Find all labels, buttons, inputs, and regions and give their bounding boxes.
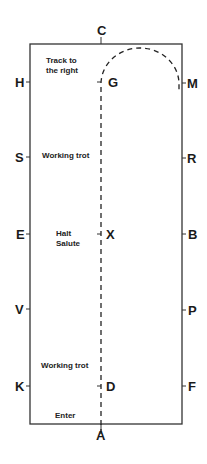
marker-k: K: [15, 380, 24, 393]
instruction-track-right: Track to the right: [46, 56, 78, 76]
marker-d: D: [106, 380, 115, 393]
instruction-enter: Enter: [55, 411, 75, 421]
marker-s: S: [15, 151, 24, 164]
marker-c: C: [97, 24, 106, 37]
instruction-working-trot-1: Working trot: [42, 151, 89, 161]
marker-a: A: [96, 429, 105, 442]
marker-h: H: [15, 76, 24, 89]
instruction-working-trot-2: Working trot: [41, 361, 88, 371]
arena-diagram: [0, 0, 207, 464]
marker-x: X: [106, 228, 115, 241]
marker-m: M: [187, 77, 198, 90]
marker-g: G: [108, 76, 118, 89]
marker-v: V: [15, 303, 24, 316]
marker-f: F: [188, 380, 196, 393]
instruction-halt-salute: Halt Salute: [56, 229, 80, 249]
marker-b: B: [188, 228, 197, 241]
marker-r: R: [187, 152, 196, 165]
marker-e: E: [16, 228, 25, 241]
marker-p: P: [188, 304, 197, 317]
